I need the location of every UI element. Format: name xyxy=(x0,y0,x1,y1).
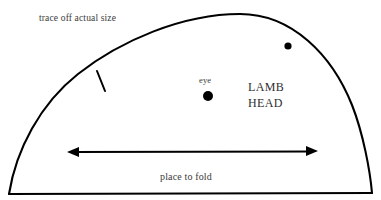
lamb-head-line1: LAMB xyxy=(248,79,284,95)
eye-label: eye xyxy=(199,76,211,86)
pattern-diagram-canvas: trace off actual size eye LAMB HEAD plac… xyxy=(0,0,381,200)
lamb-head-line2: HEAD xyxy=(248,95,284,111)
trace-instruction-label: trace off actual size xyxy=(39,13,116,24)
lamb-head-title-label: LAMB HEAD xyxy=(248,79,284,111)
head-outline-curve xyxy=(9,14,372,194)
eye-dot-marker xyxy=(203,91,213,101)
fold-baseline xyxy=(9,193,372,194)
ear-dot-marker xyxy=(284,42,291,49)
pattern-outline-svg xyxy=(0,0,381,200)
place-to-fold-label: place to fold xyxy=(160,171,212,183)
width-measure-arrow xyxy=(67,146,318,157)
notch-tick-icon xyxy=(97,71,105,91)
